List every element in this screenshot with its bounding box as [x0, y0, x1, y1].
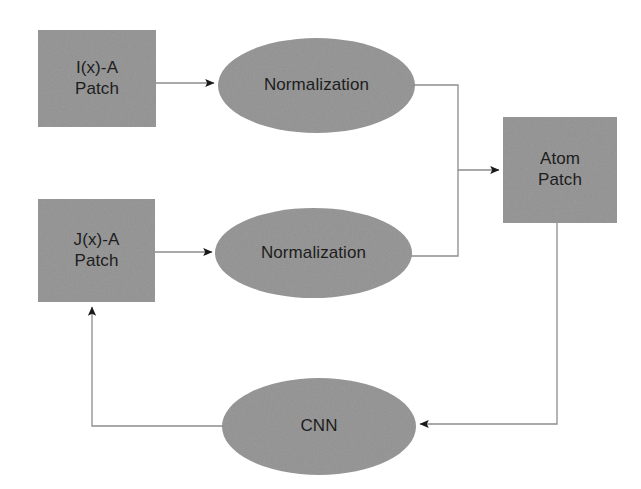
diagram-canvas: I(x)-A Patch Normalization Atom Patch J(…	[0, 0, 641, 489]
node-shape-atom-patch[interactable]	[503, 117, 617, 223]
diagram-graphics	[0, 0, 641, 489]
node-shape-jx-a-patch[interactable]	[38, 199, 155, 302]
edge-atom-patch-to-cnn	[420, 223, 557, 424]
node-shape-cnn[interactable]	[222, 378, 416, 475]
node-shape-normalization-bottom[interactable]	[215, 208, 412, 298]
node-shape-normalization-top[interactable]	[218, 38, 415, 133]
edge-normalization-top-to-atom-patch	[413, 85, 499, 170]
node-shape-ix-a-patch[interactable]	[38, 30, 156, 127]
edge-cnn-to-jx-a-patch	[92, 307, 224, 426]
edge-normalization-bottom-to-atom-patch	[411, 170, 458, 256]
node-shapes	[38, 30, 617, 475]
